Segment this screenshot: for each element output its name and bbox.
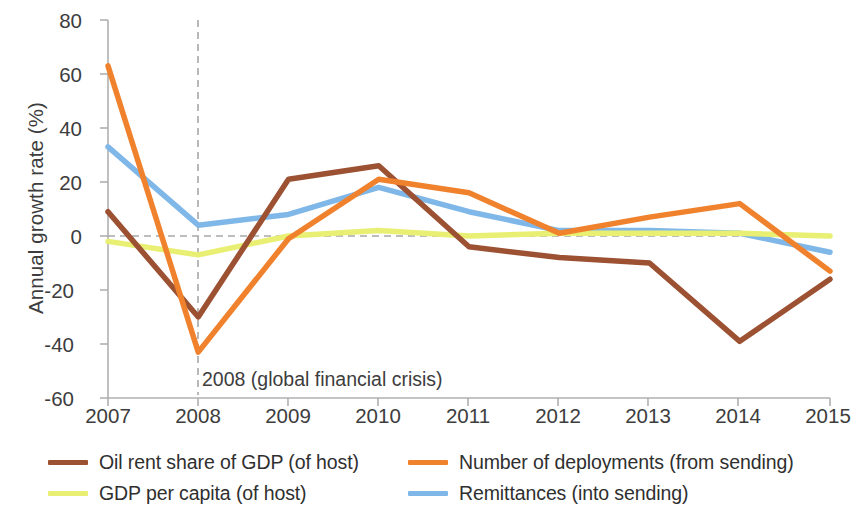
legend-item-oil-rent-share[interactable]: Oil rent share of GDP (of host) [48, 447, 408, 478]
legend-color-swatch [48, 491, 88, 496]
legend-item-deployments[interactable]: Number of deployments (from sending) [408, 447, 808, 478]
chart-plot-area [0, 0, 860, 507]
chart-figure: Annual growth rate (%) 80 60 40 20 0 -20… [0, 0, 860, 507]
series-line-gdp-per-capita [108, 231, 830, 255]
legend-item-remittances[interactable]: Remittances (into sending) [408, 478, 808, 507]
y-tick-marks [100, 20, 108, 398]
legend-item-label: Oil rent share of GDP (of host) [99, 451, 359, 474]
legend-item-gdp-per-capita[interactable]: GDP per capita (of host) [48, 478, 408, 507]
x-tick-marks [108, 398, 830, 406]
legend-item-label: Remittances (into sending) [459, 482, 688, 505]
legend-item-label: Number of deployments (from sending) [459, 451, 794, 474]
chart-legend: Oil rent share of GDP (of host) Number o… [48, 447, 860, 507]
legend-color-swatch [48, 460, 88, 465]
legend-color-swatch [408, 491, 448, 496]
legend-item-label: GDP per capita (of host) [99, 482, 307, 505]
legend-color-swatch [408, 460, 448, 465]
